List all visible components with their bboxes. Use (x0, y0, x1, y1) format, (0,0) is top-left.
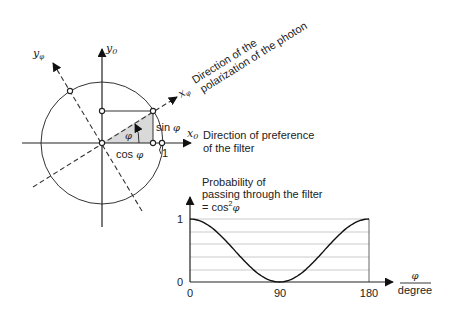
x0-label: x0 (187, 127, 198, 141)
x-tick-0: 0 (187, 287, 193, 299)
chart-title-line2: passing through the filter (202, 188, 323, 200)
x-unit-denominator: degree (398, 284, 432, 296)
x-tick-180: 180 (360, 287, 378, 299)
unit-point (159, 140, 164, 145)
x-unit-numerator: φ (411, 270, 418, 281)
filter-annotation-line2: of the filter (203, 142, 255, 154)
chart-title-line1: Probability of (202, 176, 267, 188)
polarization-annotation: Direction of the polarization of the pho… (190, 9, 309, 96)
y-tick-1: 1 (177, 213, 183, 225)
cos-label: cosφ (116, 148, 143, 160)
yphi-circle-point (67, 88, 72, 93)
cos-squared-curve (190, 219, 369, 282)
polarization-point (150, 108, 155, 113)
angle-phi-label: φ (125, 130, 132, 141)
cos-projection-point (150, 140, 155, 145)
probability-chart: 1 0 0 90 180 Probability of passing thro… (177, 176, 432, 299)
x-tick-90: 90 (274, 287, 286, 299)
filter-annotation-line1: Direction of preference (203, 129, 314, 141)
unit-label-leader (160, 146, 162, 154)
chart-title-line3: = cos2φ (202, 200, 240, 213)
figure-canvas: y0 yφ xφ x0 φ cosφ sinφ 1 Direction of t… (0, 0, 452, 311)
origin-point (99, 140, 104, 145)
sin-label: sinφ (156, 121, 180, 133)
y-projection-point (99, 108, 104, 113)
xphi-label: xφ (176, 84, 193, 102)
y-tick-0: 0 (177, 276, 183, 288)
y0-label: y0 (105, 42, 117, 56)
yphi-label: yφ (32, 47, 44, 61)
polarization-annotation-line2: polarization of the photon (198, 19, 309, 95)
unit-label: 1 (162, 147, 168, 159)
chart-gridlines (190, 219, 369, 270)
